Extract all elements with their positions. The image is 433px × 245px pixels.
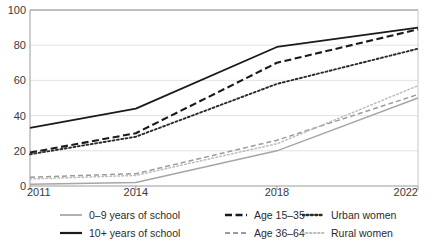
chart-legend: 0–9 years of school10+ years of school A… [0, 206, 433, 245]
legend-item[interactable]: Rural women [302, 224, 396, 242]
x-axis-tick-labels: 2011201420182022 [0, 187, 433, 203]
series-line-3 [30, 94, 418, 177]
chart-svg [0, 0, 433, 200]
x-tick-2022: 2022 [394, 187, 418, 198]
legend-label: Age 15–35 [254, 210, 305, 221]
series-line-5 [30, 86, 418, 179]
chart-container: 020406080100 2011201420182022 0–9 years … [0, 0, 433, 245]
legend-swatch-icon [60, 210, 82, 220]
legend-label: Rural women [331, 228, 393, 239]
legend-swatch-icon [225, 228, 247, 238]
legend-item[interactable]: 0–9 years of school [60, 206, 180, 224]
legend-item[interactable]: Age 15–35 [225, 206, 305, 224]
x-tick-2011: 2011 [27, 187, 51, 198]
series-lines [30, 28, 418, 185]
legend-item[interactable]: Urban women [302, 206, 396, 224]
legend-label: 0–9 years of school [89, 210, 180, 221]
series-line-4 [30, 49, 418, 155]
x-tick-2014: 2014 [124, 187, 148, 198]
legend-column-1: 0–9 years of school10+ years of school [60, 206, 180, 242]
x-tick-2018: 2018 [265, 187, 289, 198]
legend-swatch-icon [302, 228, 324, 238]
legend-item[interactable]: 10+ years of school [60, 224, 180, 242]
legend-swatch-icon [225, 210, 247, 220]
legend-label: Age 36–64 [254, 228, 305, 239]
legend-column-3: Urban womenRural women [302, 206, 396, 242]
gridlines [30, 10, 418, 151]
legend-label: Urban women [331, 210, 396, 221]
legend-column-2: Age 15–35Age 36–64 [225, 206, 305, 242]
legend-item[interactable]: Age 36–64 [225, 224, 305, 242]
plot-area: 020406080100 2011201420182022 [0, 0, 433, 200]
legend-swatch-icon [60, 228, 82, 238]
series-line-2 [30, 29, 418, 152]
legend-label: 10+ years of school [89, 228, 180, 239]
legend-swatch-icon [302, 210, 324, 220]
